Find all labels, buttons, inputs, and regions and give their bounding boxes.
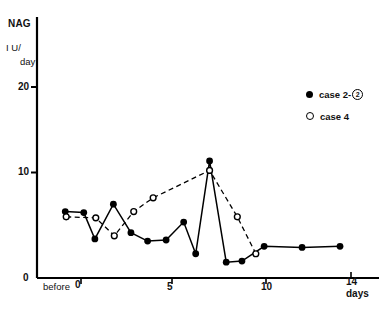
- y-axis-unit-denominator: day: [20, 56, 35, 67]
- data-point: [110, 201, 117, 208]
- data-point: [192, 250, 199, 257]
- x-tick-label-10: 10: [261, 281, 272, 292]
- data-point: [163, 237, 170, 244]
- data-point: [299, 244, 306, 251]
- data-point: [207, 167, 213, 173]
- data-point: [180, 219, 187, 226]
- x-axis-title: days: [346, 288, 369, 299]
- data-point: [253, 251, 259, 257]
- legend: case 2-2 case 4: [306, 88, 363, 132]
- data-series-layer: [62, 157, 344, 265]
- y-tick-label-10: 10: [18, 166, 29, 177]
- data-point: [337, 243, 344, 250]
- data-point: [91, 236, 98, 243]
- x-tick-label-before: before: [43, 281, 70, 292]
- legend-item-case-2: case 2-2: [306, 88, 363, 110]
- data-point: [239, 258, 246, 265]
- filled-circle-icon: [306, 91, 313, 98]
- x-tick-label-14: 14: [346, 276, 357, 287]
- data-point: [111, 233, 117, 239]
- data-point: [80, 209, 87, 216]
- data-point: [234, 214, 240, 220]
- data-point: [131, 209, 137, 215]
- data-point: [206, 157, 213, 164]
- y-tick-label-20: 20: [18, 81, 29, 92]
- y-axis-title: NAG: [8, 18, 31, 29]
- y-axis-unit-numerator: I U/: [6, 42, 21, 53]
- data-point: [150, 195, 156, 201]
- nag-line-chart: NAG I U/ day 20 10 0 before 0 5 10 14 da…: [0, 0, 389, 311]
- legend-label-case-2: case 2-: [319, 89, 351, 100]
- data-point: [93, 215, 99, 221]
- data-point: [223, 259, 230, 266]
- data-point: [63, 214, 69, 220]
- plot-area: [0, 0, 389, 311]
- data-point: [128, 229, 135, 236]
- circled-number-icon: 2: [352, 89, 363, 100]
- legend-label-case-4: case 4: [320, 111, 349, 122]
- legend-item-case-4: case 4: [306, 110, 363, 132]
- open-circle-icon: [306, 112, 314, 120]
- data-point: [144, 238, 151, 245]
- y-tick-label-0: 0: [23, 272, 29, 283]
- x-tick-label-0: 0: [75, 279, 81, 290]
- x-tick-label-5: 5: [167, 281, 173, 292]
- data-point: [261, 243, 268, 250]
